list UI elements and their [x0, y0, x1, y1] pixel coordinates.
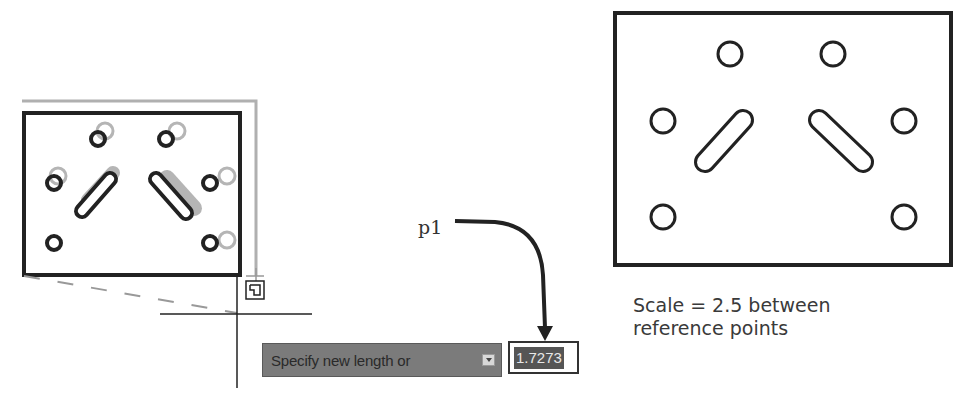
caption-line-1: Scale = 2.5 between — [633, 294, 831, 317]
rubber-band-line — [24, 276, 237, 313]
scaled-slots — [705, 120, 863, 162]
callout-arrow — [455, 221, 553, 341]
callout-label-p1: p1 — [418, 216, 442, 238]
ghost-holes — [50, 123, 235, 248]
endpoint-snap-icon — [246, 281, 264, 299]
dynamic-input-tooltip: Specify new length or — [262, 343, 502, 377]
down-arrow-icon[interactable] — [482, 354, 495, 366]
tooltip-prompt: Specify new length or — [271, 352, 410, 369]
scaled-holes — [651, 42, 916, 229]
right-plate-drawing — [615, 13, 951, 265]
caption: Scale = 2.5 between reference points — [633, 294, 831, 340]
holes — [47, 132, 217, 250]
slots — [82, 179, 186, 213]
caption-line-2: reference points — [633, 317, 831, 340]
length-input[interactable]: 1.7273 — [508, 341, 579, 374]
length-input-value[interactable]: 1.7273 — [514, 347, 564, 369]
